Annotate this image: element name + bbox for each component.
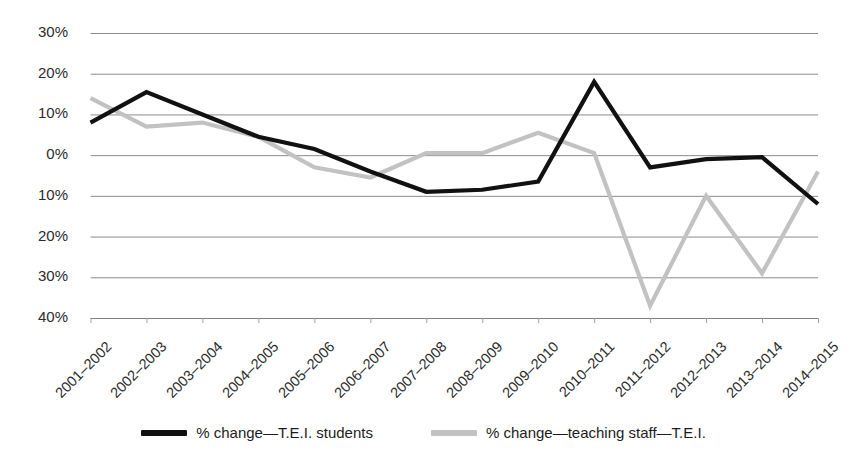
legend-item-students[interactable]: % change—T.E.I. students	[141, 424, 373, 441]
series-lines	[91, 82, 819, 306]
legend-swatch-students	[141, 430, 187, 436]
chart-container: 30%20%10%0%10%20%30%40% 2001–20022002–20…	[0, 0, 847, 474]
legend-item-staff[interactable]: % change—teaching staff—T.E.I.	[431, 424, 706, 441]
legend-label-students: % change—T.E.I. students	[196, 424, 373, 441]
series-line	[91, 98, 819, 306]
series-line	[91, 82, 819, 204]
legend-label-staff: % change—teaching staff—T.E.I.	[486, 424, 706, 441]
chart-legend: % change—T.E.I. students % change—teachi…	[0, 424, 847, 441]
gridlines	[91, 34, 819, 319]
legend-swatch-staff	[431, 430, 477, 436]
